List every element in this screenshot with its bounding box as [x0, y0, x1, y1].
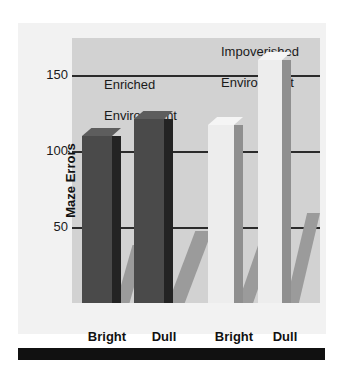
plot-area: Enriched Environment Impoverished Enviro… [72, 38, 320, 303]
y-tick-mark-150 [72, 75, 82, 77]
bar-front-face [134, 119, 164, 303]
x-axis-label-impoverished-dull: Dull [250, 329, 320, 344]
annotation-impoverished-line1: Impoverished [221, 44, 299, 59]
bottom-rule [18, 348, 325, 360]
bar-front-face [82, 136, 112, 303]
bar-side-face [112, 136, 121, 303]
bar-shadow [286, 213, 320, 303]
annotation-enriched-line1: Enriched [104, 77, 177, 92]
bar-side-face [282, 60, 291, 303]
y-axis-title: Maze Errors [63, 121, 78, 241]
bar-front-face [208, 125, 234, 303]
chart-figure-panel: Enriched Environment Impoverished Enviro… [18, 23, 326, 334]
bar-side-face [234, 125, 243, 303]
bar-shadow [168, 231, 212, 303]
bar-impoverished-dull[interactable] [258, 38, 320, 303]
bar-front-face [258, 60, 282, 303]
bar-side-face [164, 119, 173, 303]
bar-top-face [208, 117, 243, 125]
x-axis-label-enriched-dull: Dull [129, 329, 199, 344]
y-tick-label-150: 150 [28, 68, 68, 81]
